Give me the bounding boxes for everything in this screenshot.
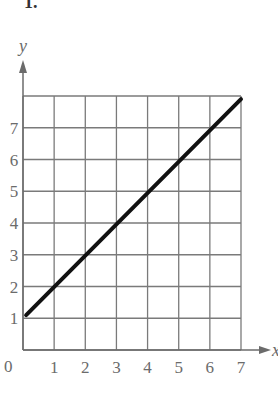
y-tick-label: 1 — [10, 309, 19, 328]
x-tick-label: 1 — [50, 358, 59, 377]
x-axis-arrow-icon — [259, 346, 271, 354]
problem-number: 1. — [24, 0, 38, 12]
origin-label: 0 — [4, 357, 13, 376]
y-tick-label: 5 — [10, 182, 19, 201]
y-tick-label: 6 — [10, 151, 19, 170]
x-tick-label: 4 — [143, 358, 152, 377]
x-tick-label: 2 — [81, 358, 90, 377]
data-series — [26, 99, 241, 315]
y-tick-label: 4 — [10, 214, 19, 233]
x-axis-label: x — [271, 340, 278, 360]
x-tick-label: 7 — [237, 358, 246, 377]
axes — [19, 60, 271, 354]
x-tick-label: 6 — [206, 358, 215, 377]
x-tick-label: 5 — [174, 358, 183, 377]
y-tick-label: 2 — [10, 278, 19, 297]
data-line — [26, 99, 241, 315]
y-axis-label: y — [17, 36, 27, 56]
y-axis-arrow-icon — [19, 60, 27, 73]
y-tick-label: 7 — [10, 119, 19, 138]
line-chart: 1. y x 012345671234567 — [0, 0, 278, 393]
x-tick-label: 3 — [112, 358, 121, 377]
y-tick-label: 3 — [10, 246, 19, 265]
